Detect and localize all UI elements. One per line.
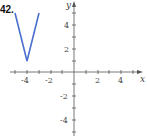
x-axis-label: x xyxy=(140,74,145,84)
graph: 42. y x -4 -2 2 4 4 2 -2 -4 xyxy=(0,0,147,140)
x-tick-label: 2 xyxy=(95,76,100,85)
x-tick-label: -2 xyxy=(45,76,53,85)
x-tick-label: -4 xyxy=(21,76,29,85)
y-tick-label: -2 xyxy=(60,92,68,101)
v-graph-line xyxy=(15,13,39,61)
x-tick-label: 4 xyxy=(118,76,123,85)
problem-number: 42. xyxy=(0,4,14,15)
y-axis-label: y xyxy=(65,0,72,10)
y-tick-label: 4 xyxy=(64,21,69,30)
y-tick-label: 2 xyxy=(64,45,69,54)
x-axis xyxy=(10,70,143,74)
y-axis xyxy=(72,1,76,136)
y-tick-label: -4 xyxy=(60,116,68,125)
